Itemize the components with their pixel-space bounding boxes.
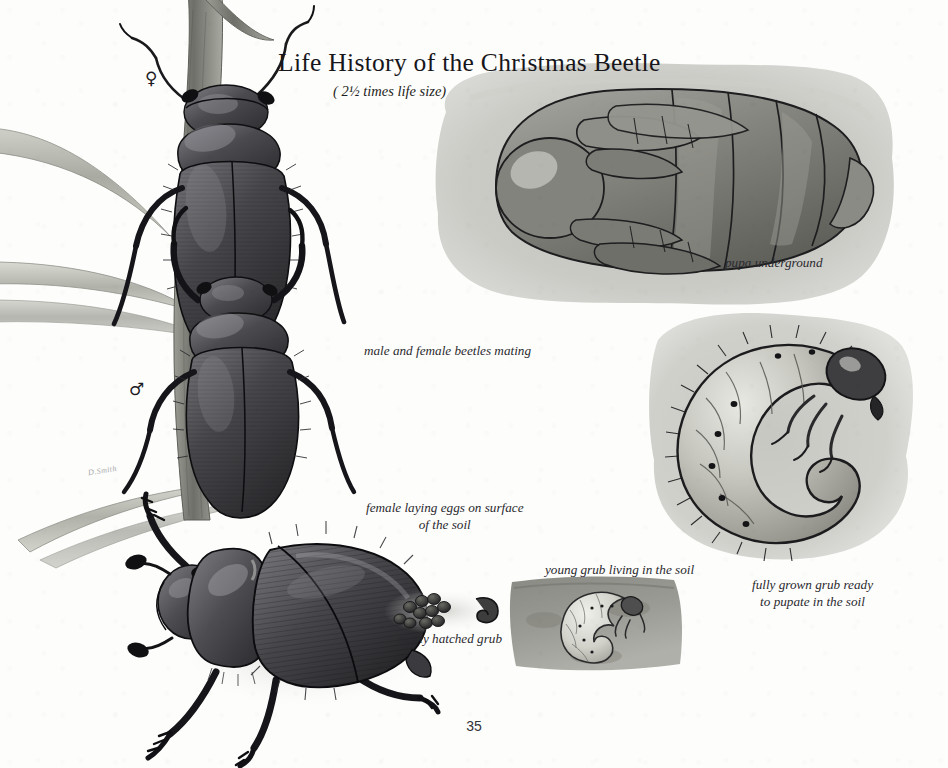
female-symbol: ♀ — [145, 68, 157, 88]
young-grub-art — [508, 572, 688, 677]
caption-young-grub: young grub living in the soil — [545, 562, 694, 579]
page-number: 35 — [0, 718, 948, 734]
pupa-art — [410, 54, 920, 324]
caption-fully-grown-grub: fully grown grub ready to pupate in the … — [752, 577, 873, 610]
caption-pupa: pupa underground — [725, 255, 823, 272]
scale-subtitle: ( 2½ times life size) — [333, 83, 446, 100]
male-symbol: ♂ — [129, 379, 144, 399]
caption-mating: male and female beetles mating — [364, 343, 531, 360]
page-title: Life History of the Christmas Beetle — [278, 48, 661, 78]
fully-grown-grub-art — [630, 300, 930, 580]
pupa-body — [496, 89, 874, 274]
caption-laying-eggs: female laying eggs on surface of the soi… — [366, 500, 523, 533]
caption-newly-hatched-grub: newly hatched grub — [398, 631, 502, 648]
illustration-page: Life History of the Christmas Beetle ( 2… — [0, 0, 948, 768]
mating-beetles-art — [60, 0, 390, 520]
